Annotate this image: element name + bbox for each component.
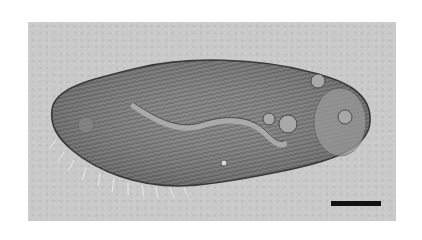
vacuole [338,110,352,124]
vacuole [311,74,325,88]
scale-bar [331,201,381,206]
vacuole [221,160,227,166]
micrograph-panel [28,22,396,221]
ciliate-cell [28,22,396,221]
vacuole [263,113,275,125]
vacuole [78,117,94,133]
vacuole [279,115,297,133]
